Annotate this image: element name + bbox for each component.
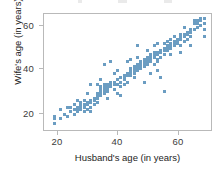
scatter-points-layer bbox=[44, 14, 211, 130]
data-point bbox=[96, 101, 99, 104]
data-point bbox=[109, 60, 112, 63]
data-point bbox=[189, 35, 192, 38]
data-point bbox=[123, 83, 126, 86]
data-point bbox=[143, 81, 146, 84]
data-point bbox=[163, 53, 166, 56]
data-point bbox=[146, 49, 149, 52]
data-point bbox=[89, 110, 92, 113]
data-point bbox=[113, 88, 116, 91]
data-point bbox=[203, 28, 206, 31]
data-point bbox=[136, 56, 139, 59]
data-point bbox=[169, 53, 172, 56]
data-point bbox=[66, 115, 69, 118]
x-ticklabel-40: 40 bbox=[104, 136, 130, 147]
y-ticklabel-20: 20 bbox=[8, 108, 34, 119]
data-point bbox=[99, 78, 102, 81]
data-point bbox=[126, 81, 129, 84]
x-tick-20 bbox=[57, 131, 58, 135]
data-point bbox=[106, 97, 109, 100]
data-point bbox=[96, 83, 99, 86]
data-point bbox=[106, 90, 109, 93]
clipped-artifact bbox=[78, 0, 82, 3]
clipped-artifact bbox=[118, 0, 127, 3]
data-point bbox=[203, 22, 206, 25]
data-point bbox=[179, 51, 182, 54]
data-point bbox=[136, 44, 139, 47]
y-axis-label: Wife's age (in years) bbox=[12, 0, 23, 97]
data-point bbox=[59, 108, 62, 111]
data-point bbox=[203, 17, 206, 20]
data-point bbox=[163, 90, 166, 93]
data-point bbox=[203, 35, 206, 38]
data-point bbox=[116, 69, 119, 72]
data-point bbox=[156, 60, 159, 63]
x-tick-60 bbox=[178, 131, 179, 135]
data-point bbox=[149, 72, 152, 75]
data-point bbox=[183, 26, 186, 29]
data-point bbox=[113, 72, 116, 75]
data-point bbox=[129, 58, 132, 61]
x-tick-40 bbox=[117, 131, 118, 135]
data-point bbox=[66, 106, 69, 109]
x-ticklabel-60: 60 bbox=[165, 136, 191, 147]
scatter-plot-figure: 60 40 20 20 40 60 Wife's age (in years) … bbox=[0, 0, 221, 173]
data-point bbox=[86, 92, 89, 95]
data-point bbox=[159, 76, 162, 79]
data-point bbox=[189, 44, 192, 47]
clipped-artifact bbox=[164, 0, 172, 3]
data-point bbox=[156, 42, 159, 45]
plot-area bbox=[43, 13, 212, 131]
data-point bbox=[103, 63, 106, 66]
x-ticklabel-20: 20 bbox=[44, 136, 70, 147]
x-axis-label: Husband's age (in years) bbox=[43, 152, 212, 163]
data-point bbox=[76, 99, 79, 102]
data-point bbox=[133, 76, 136, 79]
data-point bbox=[119, 94, 122, 97]
data-point bbox=[179, 44, 182, 47]
data-point bbox=[156, 69, 159, 72]
data-point bbox=[53, 122, 56, 125]
data-point bbox=[53, 115, 56, 118]
data-point bbox=[59, 117, 62, 120]
data-point bbox=[89, 83, 92, 86]
